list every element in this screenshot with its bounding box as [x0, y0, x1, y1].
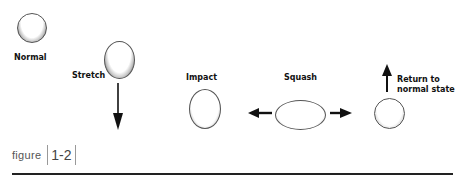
arrow-up-icon — [382, 64, 392, 92]
figure-caption: figure 1-2 — [12, 144, 76, 166]
label-stretch: Stretch — [72, 71, 105, 81]
ball-impact — [189, 89, 221, 129]
ball-return — [374, 98, 405, 129]
label-return-line1: Return to — [397, 75, 440, 85]
label-squash: Squash — [284, 73, 317, 83]
caption-word: figure — [12, 149, 41, 161]
caption-rule — [12, 173, 453, 175]
arrow-down-icon — [112, 83, 124, 130]
arrow-left-icon — [248, 108, 272, 118]
ball-squash — [275, 100, 326, 130]
caption-divider-right — [75, 145, 76, 165]
label-return-line2: normal state — [397, 85, 455, 95]
caption-number: 1-2 — [51, 147, 71, 163]
label-impact: Impact — [186, 73, 217, 83]
caption-divider — [47, 145, 48, 165]
ball-stretch — [104, 41, 135, 79]
label-normal: Normal — [14, 53, 47, 63]
ball-normal — [17, 13, 47, 43]
arrow-right-icon — [330, 108, 352, 118]
squash-stretch-diagram: Normal Stretch Impact Squash Return to n… — [0, 0, 466, 179]
